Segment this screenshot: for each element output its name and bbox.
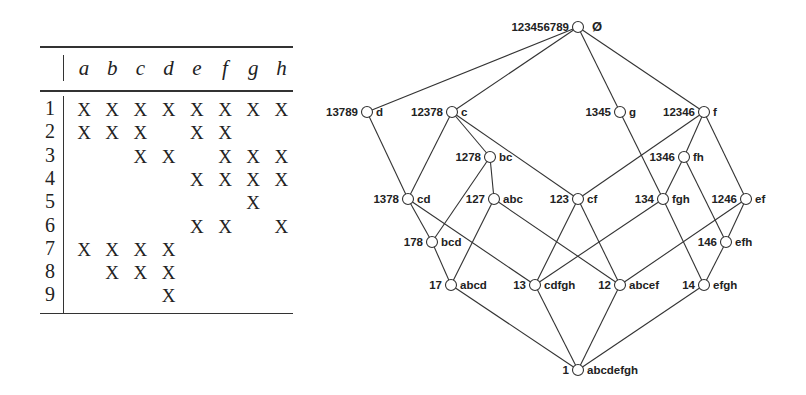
concept-extent-label: 1278 <box>455 151 481 163</box>
concept-intent-label: efh <box>735 236 752 248</box>
concept-intent-label: abcdefgh <box>587 364 638 376</box>
lattice-edge <box>451 285 578 370</box>
concept-extent-label: 1346 <box>649 151 675 163</box>
concept-circle <box>403 194 414 205</box>
concept-intent-label: fh <box>693 151 704 163</box>
concept-extent-label: 12346 <box>663 106 695 118</box>
concept-extent-label: 146 <box>698 236 717 248</box>
concept-node-abcef: 12abcef <box>598 279 659 291</box>
concept-intent-label: efgh <box>713 279 737 291</box>
concept-circle <box>446 280 457 291</box>
concept-extent-label: 14 <box>682 279 695 291</box>
concept-node-bc: 1278bc <box>455 151 513 163</box>
concept-node-fh: 1346fh <box>649 151 703 163</box>
concept-node-c: 12378c <box>411 106 468 118</box>
concept-node-abc: 127abc <box>466 193 524 205</box>
lattice-edge <box>704 112 746 199</box>
concept-circle <box>530 280 541 291</box>
concept-extent-label: 1345 <box>585 106 611 118</box>
lattice-edge <box>578 285 620 370</box>
concept-node-d: 13789d <box>326 106 383 118</box>
concept-circle <box>658 194 669 205</box>
concept-intent-label: Ø <box>592 19 602 34</box>
concept-intent-label: abcd <box>460 279 487 291</box>
concept-intent-label: bcd <box>441 236 461 248</box>
concept-intent-label: d <box>376 106 383 118</box>
concept-circle <box>699 107 710 118</box>
lattice-edge <box>578 285 704 370</box>
lattice-edge <box>578 27 704 112</box>
concept-extent-label: 178 <box>404 236 424 248</box>
concept-circle <box>615 280 626 291</box>
concept-circle <box>679 152 690 163</box>
concept-intent-label: f <box>713 106 717 118</box>
concept-node-cdfgh: 13cdfgh <box>513 279 575 291</box>
concept-extent-label: 17 <box>429 279 442 291</box>
concept-node-bcd: 178bcd <box>404 236 462 248</box>
concept-node-efh: 146efh <box>698 236 752 248</box>
lattice-nodes: 123456789Ø13789d12378c1345g12346f1278bc1… <box>326 19 765 376</box>
concept-intent-label: c <box>461 106 468 118</box>
lattice-edge <box>367 27 578 112</box>
concept-circle <box>573 22 584 33</box>
concept-node-f: 12346f <box>663 106 717 118</box>
concept-circle <box>573 194 584 205</box>
concept-lattice-diagram: 123456789Ø13789d12378c1345g12346f1278bc1… <box>0 0 806 395</box>
lattice-edge <box>535 199 578 285</box>
concept-intent-label: fgh <box>672 193 690 205</box>
concept-circle <box>447 107 458 118</box>
concept-circle <box>741 194 752 205</box>
concept-circle <box>427 237 438 248</box>
concept-intent-label: cf <box>587 193 597 205</box>
concept-extent-label: 12378 <box>411 106 444 118</box>
concept-node-g: 1345g <box>585 106 636 118</box>
concept-circle <box>721 237 732 248</box>
concept-intent-label: g <box>629 106 636 118</box>
concept-extent-label: 13789 <box>326 106 358 118</box>
concept-extent-label: 134 <box>635 193 655 205</box>
concept-circle <box>485 152 496 163</box>
lattice-edge <box>578 27 620 112</box>
lattice-edge <box>452 27 578 112</box>
concept-circle <box>615 107 626 118</box>
concept-node-cf: 123cf <box>550 193 598 205</box>
concept-extent-label: 123456789 <box>511 21 569 33</box>
lattice-edge <box>535 199 663 285</box>
lattice-edge <box>408 112 452 199</box>
concept-node-efgh: 14efgh <box>682 279 737 291</box>
concept-extent-label: 1246 <box>711 193 737 205</box>
concept-extent-label: 12 <box>598 279 611 291</box>
lattice-edge <box>535 285 578 370</box>
concept-node-bottom: 1abcdefgh <box>563 364 639 376</box>
concept-node-fgh: 134fgh <box>635 193 690 205</box>
concept-circle <box>699 280 710 291</box>
concept-circle <box>362 107 373 118</box>
concept-extent-label: 127 <box>466 193 485 205</box>
concept-node-ef: 1246ef <box>711 193 765 205</box>
concept-intent-label: cdfgh <box>544 279 575 291</box>
concept-node-top: 123456789Ø <box>511 19 602 34</box>
concept-intent-label: ef <box>755 193 765 205</box>
concept-intent-label: abcef <box>629 279 659 291</box>
concept-extent-label: 123 <box>550 193 569 205</box>
concept-intent-label: abc <box>503 193 523 205</box>
concept-extent-label: 13 <box>513 279 526 291</box>
concept-intent-label: cd <box>417 193 430 205</box>
concept-extent-label: 1378 <box>373 193 399 205</box>
concept-circle <box>573 365 584 376</box>
lattice-edge <box>490 157 494 199</box>
concept-extent-label: 1 <box>563 364 570 376</box>
lattice-edge <box>367 112 408 199</box>
concept-circle <box>489 194 500 205</box>
concept-intent-label: bc <box>499 151 513 163</box>
concept-node-cd: 1378cd <box>373 193 430 205</box>
